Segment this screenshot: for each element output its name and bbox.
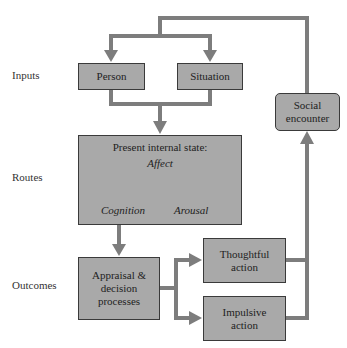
person-box: Person [78,63,145,90]
merge-from-inputs [111,90,210,104]
internal-state-box: Present internal state: Affect Cognition… [78,135,242,225]
impulsive-action-box: Impulsive action [203,296,286,341]
thoughtful-action-box: Thoughtful action [203,238,286,283]
thoughtful-label-line1: Thoughtful [220,248,270,261]
arrow-to-internal-state [153,121,167,134]
social-encounter-box: Social encounter [275,93,340,131]
thoughtful-label-line2: action [231,261,258,274]
social-label-line1: Social [294,99,322,112]
arrow-to-impulsive [189,311,202,325]
row-label-routes: Routes [12,171,43,183]
situation-label: Situation [190,70,230,83]
impulsive-label-line2: action [231,319,258,332]
arrow-to-thoughtful [189,253,202,267]
appraisal-label-line1: Appraisal & [92,269,146,282]
appraisal-label-line3: processes [98,295,140,308]
arousal-label: Arousal [174,204,208,217]
appraisal-label-line2: decision [101,282,138,295]
arrow-to-social [300,131,314,144]
person-label: Person [97,70,127,83]
arrow-to-situation [203,50,217,62]
affect-label: Affect [79,157,241,170]
cognition-label: Cognition [101,204,145,217]
appraisal-box: Appraisal & decision processes [78,257,160,320]
arrow-to-appraisal [112,244,126,256]
social-label-line2: encounter [286,112,329,125]
internal-state-title: Present internal state: [79,141,241,154]
split-to-inputs [111,36,210,50]
row-label-outcomes: Outcomes [12,279,57,291]
row-label-inputs: Inputs [12,69,40,81]
arrow-to-person [104,50,118,62]
impulsive-label-line1: Impulsive [223,306,267,319]
situation-box: Situation [177,63,243,90]
